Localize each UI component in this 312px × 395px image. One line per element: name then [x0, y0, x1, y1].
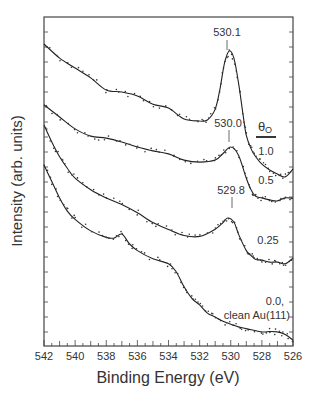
coverage-label-4: 0.0,	[266, 295, 284, 307]
spectrum-line	[44, 105, 293, 201]
coverage-label-1: 1.0	[258, 145, 273, 157]
x-tick-label: 532	[190, 350, 208, 362]
x-tick-label: 542	[35, 350, 53, 362]
x-axis-label: Binding Energy (eV)	[96, 369, 239, 386]
axis-ticks	[44, 32, 293, 346]
spectra-curves	[44, 44, 293, 340]
x-tick-labels: 542540538536534532530528526	[35, 350, 302, 362]
data-points	[43, 46, 293, 342]
coverage-label-2: 0.5	[258, 174, 273, 186]
x-tick-label: 534	[159, 350, 177, 362]
x-tick-label: 536	[128, 350, 146, 362]
y-axis-label: Intensity (arb. units)	[8, 115, 25, 247]
peak-label-1: 530.1	[213, 26, 241, 38]
xps-chart: 542540538536534532530528526 Binding Ener…	[0, 0, 312, 395]
coverage-label-4-sample: clean Au(111)	[224, 309, 290, 321]
x-tick-label: 530	[222, 350, 240, 362]
x-tick-label: 540	[66, 350, 84, 362]
legend-title: θO	[258, 119, 272, 135]
peak-label-2: 530.0	[214, 117, 242, 129]
x-tick-label: 528	[253, 350, 271, 362]
plot-frame	[44, 17, 293, 346]
spectrum-line	[44, 44, 293, 177]
x-tick-label: 526	[284, 350, 302, 362]
coverage-label-3: 0.25	[257, 234, 278, 246]
x-tick-label: 538	[97, 350, 115, 362]
peak-label-3: 529.8	[217, 184, 245, 196]
